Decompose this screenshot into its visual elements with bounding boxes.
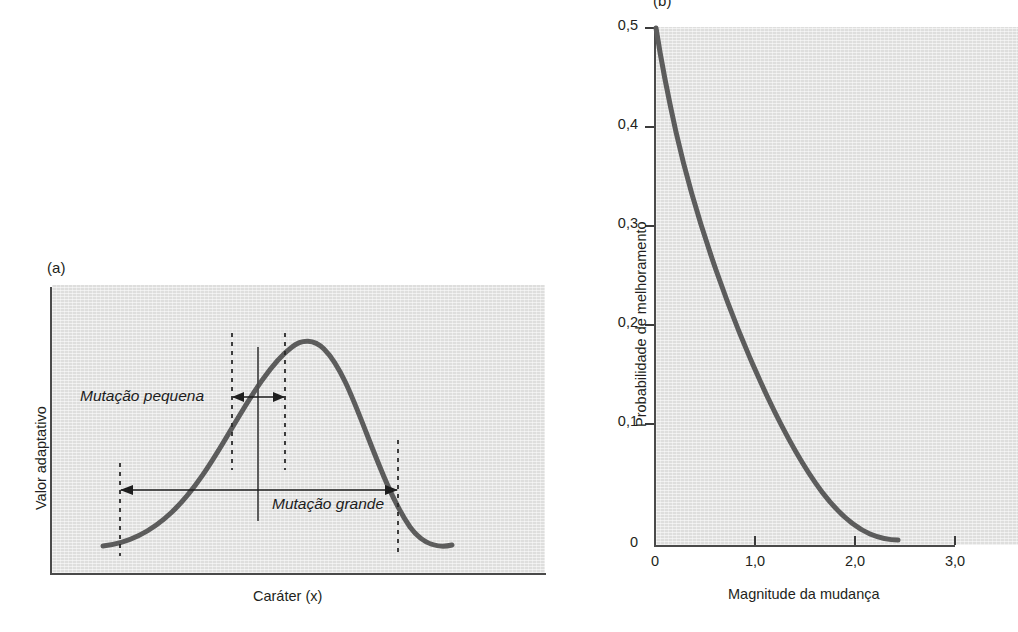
panel-a-small-arrowhead-left [232,392,244,402]
panel-a-annotation-small-mutation: Mutação pequena [80,387,204,405]
panel-b-plot-svg [560,0,984,632]
panel-a-annotation-large-mutation: Mutação grande [272,495,384,513]
panel-a-fitness-curve [103,341,452,546]
panel-a-y-axis-title: Valor adaptativo [33,406,49,510]
panel-a-small-arrowhead-right [273,392,285,402]
panel-b-probability-curve [656,28,898,540]
panel-b-y-axis-title: Probabilidade de melhoramento [633,221,649,427]
panel-a: (a) Mutação pequena [0,0,560,632]
panel-a-x-axis-title: Caráter (x) [253,588,322,604]
panel-b-x-axis-title: Magnitude da mudança [728,586,880,602]
panel-b: (b) 0,5 0,4 0,3 0,2 0,1 0 0 1,0 2,0 3,0 … [560,0,984,632]
panel-a-plot-svg [0,0,560,632]
panel-a-large-arrowhead-left [120,485,133,495]
